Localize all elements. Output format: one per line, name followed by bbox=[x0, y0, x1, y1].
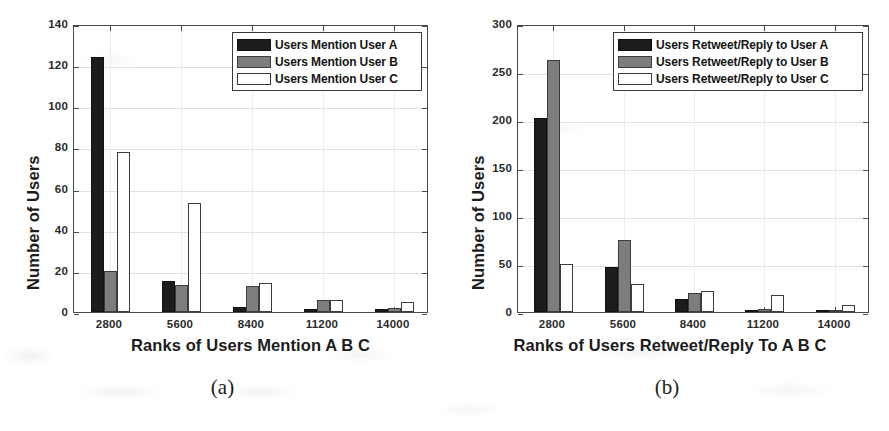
y-axis-tick bbox=[422, 149, 427, 150]
gridline-horizontal bbox=[518, 170, 868, 171]
bar bbox=[560, 264, 573, 312]
y-axis-tick-label: 40 bbox=[22, 224, 68, 236]
y-axis-tick-label: 60 bbox=[22, 183, 68, 195]
bar bbox=[534, 118, 547, 312]
legend-item-label: Users Retweet/Reply to User C bbox=[656, 72, 829, 86]
y-axis-tick bbox=[74, 314, 79, 315]
x-axis-tick-label: 5600 bbox=[145, 318, 215, 330]
y-axis-tick-label: 80 bbox=[22, 141, 68, 153]
x-axis-tick-label: 14000 bbox=[358, 318, 428, 330]
bar bbox=[375, 309, 388, 312]
gridline-vertical bbox=[110, 26, 111, 312]
y-axis-tick bbox=[863, 26, 868, 27]
x-axis-tick-label: 5600 bbox=[588, 318, 658, 330]
x-axis-tick bbox=[624, 26, 625, 31]
y-axis-tick-label: 200 bbox=[466, 114, 512, 126]
y-axis-tick-label: 250 bbox=[466, 66, 512, 78]
y-axis-tick-label: 120 bbox=[22, 59, 68, 71]
y-axis-tick bbox=[74, 26, 79, 27]
legend-item-label: Users Retweet/Reply to User B bbox=[656, 55, 829, 69]
bar bbox=[175, 285, 188, 312]
y-axis-tick bbox=[518, 266, 523, 267]
x-axis-tick bbox=[110, 26, 111, 31]
bar bbox=[842, 305, 855, 312]
bar bbox=[104, 271, 117, 312]
y-axis-tick bbox=[863, 218, 868, 219]
y-axis-tick-label: 100 bbox=[466, 210, 512, 222]
legend-item-label: Users Mention User C bbox=[275, 72, 398, 86]
x-axis-tick-label: 8400 bbox=[658, 318, 728, 330]
bar bbox=[605, 267, 618, 312]
bar bbox=[547, 60, 560, 312]
y-axis-tick bbox=[74, 108, 79, 109]
y-axis-tick bbox=[863, 266, 868, 267]
x-axis-tick bbox=[553, 26, 554, 31]
x-axis-label-b: Ranks of Users Retweet/Reply To A B C bbox=[455, 336, 885, 355]
legend-item: Users Retweet/Reply to User C bbox=[618, 70, 858, 87]
bar bbox=[771, 295, 784, 312]
y-axis-tick bbox=[518, 74, 523, 75]
y-axis-tick-label: 140 bbox=[22, 18, 68, 30]
bar bbox=[317, 300, 330, 312]
x-axis-tick bbox=[764, 26, 765, 31]
bar bbox=[246, 286, 259, 312]
legend-swatch-black bbox=[237, 39, 271, 51]
y-axis-tick bbox=[422, 273, 427, 274]
x-axis-tick bbox=[181, 26, 182, 31]
y-axis-tick bbox=[422, 108, 427, 109]
y-axis-tick bbox=[863, 170, 868, 171]
y-axis-tick bbox=[74, 232, 79, 233]
bar bbox=[162, 281, 175, 312]
y-axis-tick bbox=[422, 232, 427, 233]
bar bbox=[631, 284, 644, 312]
bar bbox=[701, 291, 714, 312]
x-axis-label-a: Ranks of Users Mention A B C bbox=[33, 336, 468, 355]
legend-a: Users Mention User AUsers Mention User B… bbox=[232, 32, 422, 91]
bar bbox=[188, 203, 201, 312]
bar bbox=[233, 307, 246, 312]
y-axis-tick bbox=[74, 191, 79, 192]
legend-item: Users Mention User B bbox=[237, 53, 417, 70]
legend-item-label: Users Mention User B bbox=[275, 55, 398, 69]
legend-b: Users Retweet/Reply to User AUsers Retwe… bbox=[613, 32, 863, 91]
bar bbox=[117, 152, 130, 312]
bar bbox=[758, 309, 771, 312]
legend-item: Users Mention User A bbox=[237, 36, 417, 53]
legend-swatch-white bbox=[618, 73, 652, 85]
x-axis-tick bbox=[252, 26, 253, 31]
bar bbox=[91, 57, 104, 312]
y-axis-tick bbox=[518, 314, 523, 315]
y-axis-tick bbox=[74, 67, 79, 68]
y-axis-tick-label: 0 bbox=[22, 306, 68, 318]
y-axis-tick-label: 150 bbox=[466, 162, 512, 174]
y-axis-tick bbox=[518, 170, 523, 171]
legend-item-label: Users Retweet/Reply to User A bbox=[656, 38, 828, 52]
subfigure-caption-b: (b) bbox=[445, 375, 889, 400]
bar bbox=[816, 310, 829, 312]
y-axis-tick-label: 100 bbox=[22, 100, 68, 112]
subfigure-caption-a: (a) bbox=[0, 375, 445, 400]
y-axis-tick-label: 0 bbox=[466, 306, 512, 318]
y-axis-tick bbox=[863, 74, 868, 75]
x-axis-tick bbox=[323, 26, 324, 31]
gridline-horizontal bbox=[74, 108, 427, 109]
y-axis-tick bbox=[422, 26, 427, 27]
bar bbox=[675, 299, 688, 312]
bar bbox=[688, 293, 701, 312]
bar bbox=[304, 309, 317, 312]
legend-item: Users Retweet/Reply to User B bbox=[618, 53, 858, 70]
gridline-horizontal bbox=[74, 149, 427, 150]
x-axis-tick bbox=[694, 26, 695, 31]
x-axis-tick-label: 8400 bbox=[216, 318, 286, 330]
gridline-vertical bbox=[181, 26, 182, 312]
y-axis-tick-label: 300 bbox=[466, 18, 512, 30]
legend-item: Users Retweet/Reply to User A bbox=[618, 36, 858, 53]
x-axis-tick-label: 11200 bbox=[728, 318, 798, 330]
bar bbox=[829, 310, 842, 312]
legend-item: Users Mention User C bbox=[237, 70, 417, 87]
y-axis-tick bbox=[518, 218, 523, 219]
x-axis-tick bbox=[394, 26, 395, 31]
y-axis-tick-label: 20 bbox=[22, 265, 68, 277]
x-axis-tick-label: 2800 bbox=[74, 318, 144, 330]
y-axis-tick bbox=[518, 122, 523, 123]
